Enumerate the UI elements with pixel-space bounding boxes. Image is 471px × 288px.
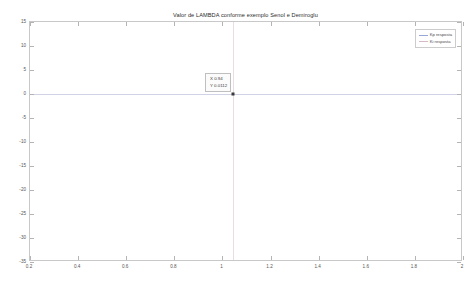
y-tick-mark [457,214,461,215]
x-tick-label: 0.4 [74,264,80,269]
x-tick-mark [319,22,320,26]
plot-surface: X 0.94 Y 0.0112 Kp resposta Ki resposta [30,22,461,260]
y-tick-label: 0 [8,91,26,96]
y-tick-mark [457,166,461,167]
x-tick-mark [319,256,320,260]
legend-entry-ki[interactable]: Ki resposta [419,39,452,46]
series-ki-line [233,22,234,260]
plot-axes[interactable]: X 0.94 Y 0.0112 Kp resposta Ki resposta [29,21,462,261]
y-tick-label: -30 [8,235,26,240]
series-kp-line [30,94,461,95]
y-tick-mark [30,70,34,71]
y-tick-mark [30,262,34,263]
y-tick-mark [457,262,461,263]
x-tick-mark [78,22,79,26]
x-tick-mark [463,256,464,260]
x-tick-label: 1.8 [411,264,417,269]
x-tick-label: 0.2 [26,264,32,269]
y-tick-mark [30,118,34,119]
y-tick-label: -35 [8,259,26,264]
legend[interactable]: Kp resposta Ki resposta [415,29,456,48]
x-tick-label: 1 [220,264,223,269]
x-tick-label: 1.2 [266,264,272,269]
y-tick-mark [457,142,461,143]
legend-label-ki: Ki resposta [430,39,451,46]
data-tip-y: Y 0.0112 [210,83,227,90]
x-tick-label: 0.6 [122,264,128,269]
y-tick-mark [30,22,34,23]
matlab-figure-window: Valor de LAMBDA conforme exemplo Senol e… [0,0,471,288]
y-tick-label: 10 [8,43,26,48]
x-tick-mark [415,256,416,260]
y-tick-mark [30,94,34,95]
y-tick-mark [457,190,461,191]
page-title: Valor de LAMBDA conforme exemplo Senol e… [29,12,462,18]
y-tick-label: 5 [8,67,26,72]
x-tick-mark [30,256,31,260]
y-tick-mark [30,214,34,215]
y-tick-mark [457,238,461,239]
y-tick-mark [30,46,34,47]
y-tick-label: -15 [8,163,26,168]
x-tick-label: 1.4 [314,264,320,269]
y-tick-mark [30,142,34,143]
y-tick-mark [30,238,34,239]
y-tick-label: -5 [8,115,26,120]
x-tick-label: 1.6 [363,264,369,269]
data-tip-x: X 0.94 [210,76,227,83]
x-tick-mark [367,256,368,260]
x-tick-mark [222,256,223,260]
y-tick-label: -20 [8,187,26,192]
y-tick-mark [30,166,34,167]
y-tick-mark [457,118,461,119]
x-tick-mark [271,22,272,26]
x-tick-mark [415,22,416,26]
y-tick-mark [30,190,34,191]
y-tick-mark [457,46,461,47]
y-tick-mark [457,70,461,71]
x-tick-label: 2 [461,264,464,269]
legend-swatch-ki-icon [419,41,428,42]
y-tick-label: 15 [8,19,26,24]
y-tick-mark [457,22,461,23]
x-tick-mark [174,22,175,26]
x-tick-label: 0.8 [170,264,176,269]
x-tick-mark [367,22,368,26]
legend-swatch-kp-icon [419,35,428,36]
x-tick-mark [174,256,175,260]
data-point-marker[interactable] [232,93,235,96]
y-tick-label: -10 [8,139,26,144]
x-tick-mark [463,22,464,26]
y-tick-label: -25 [8,211,26,216]
x-tick-mark [222,22,223,26]
x-tick-mark [126,256,127,260]
x-tick-mark [271,256,272,260]
x-tick-mark [126,22,127,26]
y-tick-mark [457,94,461,95]
x-tick-mark [78,256,79,260]
data-tip[interactable]: X 0.94 Y 0.0112 [205,73,231,92]
